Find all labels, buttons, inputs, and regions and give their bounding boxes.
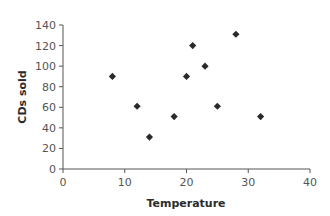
y-tick-label: 140: [35, 19, 56, 32]
x-axis-title: Temperature: [146, 197, 225, 210]
diamond-marker-icon: [232, 31, 239, 38]
y-axis: 020406080100120140: [35, 19, 63, 176]
y-tick-label: 0: [49, 163, 56, 176]
x-tick-label: 30: [241, 176, 255, 189]
diamond-marker-icon: [183, 73, 190, 80]
x-tick-label: 40: [303, 176, 317, 189]
x-axis: 010203040: [60, 169, 318, 189]
diamond-marker-icon: [201, 63, 208, 70]
scatter-chart: 020406080100120140 010203040 Temperature…: [0, 0, 330, 216]
y-tick-label: 120: [35, 40, 56, 53]
x-tick-label: 10: [118, 176, 132, 189]
diamond-marker-icon: [146, 134, 153, 141]
diamond-marker-icon: [189, 42, 196, 49]
y-tick-label: 80: [42, 81, 56, 94]
y-axis-title: CDs sold: [16, 70, 29, 123]
y-tick-label: 100: [35, 60, 56, 73]
y-tick-label: 20: [42, 142, 56, 155]
data-points: [109, 31, 264, 141]
diamond-marker-icon: [214, 103, 221, 110]
y-tick-label: 40: [42, 122, 56, 135]
y-tick-label: 60: [42, 101, 56, 114]
diamond-marker-icon: [257, 113, 264, 120]
diamond-marker-icon: [134, 103, 141, 110]
x-tick-label: 0: [60, 176, 67, 189]
x-tick-label: 20: [180, 176, 194, 189]
diamond-marker-icon: [171, 113, 178, 120]
diamond-marker-icon: [109, 73, 116, 80]
